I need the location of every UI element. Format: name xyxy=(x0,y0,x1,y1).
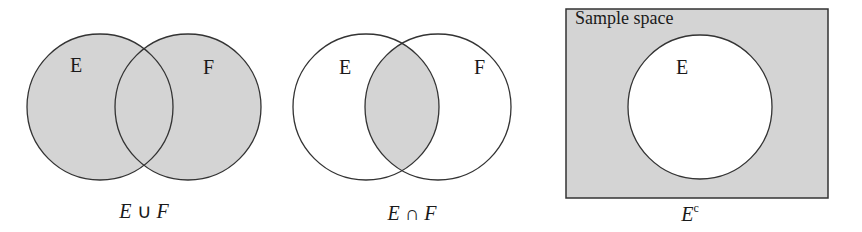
set-f-circle xyxy=(115,34,261,180)
union-caption: E∪F xyxy=(118,200,169,222)
complement-caption: Ec xyxy=(680,201,699,225)
set-e-label: E xyxy=(339,56,351,78)
set-f-label: F xyxy=(474,56,485,78)
union-diagram: E F E∪F xyxy=(27,34,261,222)
set-f-label: F xyxy=(203,56,214,78)
complement-diagram: Sample space E Ec xyxy=(566,8,828,225)
intersection-diagram: E F E∩F xyxy=(293,34,511,224)
set-e-circle xyxy=(628,35,772,179)
set-e-label: E xyxy=(70,54,82,76)
sample-space-label: Sample space xyxy=(575,8,673,28)
intersection-caption: E∩F xyxy=(387,202,438,224)
venn-diagrams: E F E∪F E F E∩F Sample space E Ec xyxy=(0,0,862,232)
set-e-label: E xyxy=(676,56,688,78)
